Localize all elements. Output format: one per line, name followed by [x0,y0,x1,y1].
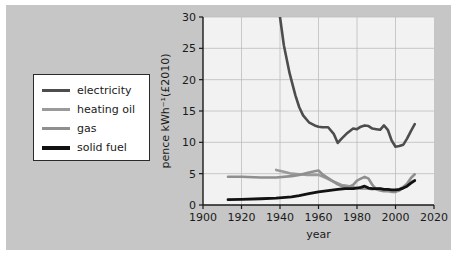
legend-item-electricity: electricity [34,81,149,100]
ytick-label: 25 [182,42,196,55]
ytick-label: 5 [189,168,196,181]
xtick-label: 2000 [382,211,410,224]
xtick-label: 1940 [266,211,294,224]
chart-plot-area: 0510152025301900192019401960198020002020… [156,5,451,250]
legend-label-heating-oil: heating oil [77,104,135,115]
ytick-label: 20 [182,74,196,87]
xtick-label: 1960 [305,211,333,224]
legend-item-gas: gas [34,119,149,138]
legend-swatch-heating-oil [42,108,70,111]
legend-item-solid-fuel: solid fuel [34,138,149,157]
line-chart-svg: 0510152025301900192019401960198020002020… [156,5,451,250]
ytick-label: 10 [182,136,196,149]
legend-label-gas: gas [77,123,96,134]
xtick-label: 1980 [343,211,371,224]
legend-label-electricity: electricity [77,85,131,96]
x-axis-title: year [306,228,331,241]
y-axis-title: pence kWh⁻¹(£2010) [159,53,172,168]
xtick-label: 1900 [189,211,217,224]
legend-item-heating-oil: heating oil [34,100,149,119]
legend-swatch-electricity [42,89,70,92]
xtick-label: 2020 [420,211,448,224]
ytick-label: 30 [182,11,196,24]
figure-canvas: electricity heating oil gas solid fuel [6,5,451,250]
figure-root: electricity heating oil gas solid fuel [0,0,457,255]
legend-swatch-gas [42,127,70,130]
legend-label-solid-fuel: solid fuel [77,142,127,153]
xtick-label: 1920 [228,211,256,224]
legend-swatch-solid-fuel [42,146,70,150]
chart-legend: electricity heating oil gas solid fuel [33,74,150,161]
ytick-label: 15 [182,105,196,118]
